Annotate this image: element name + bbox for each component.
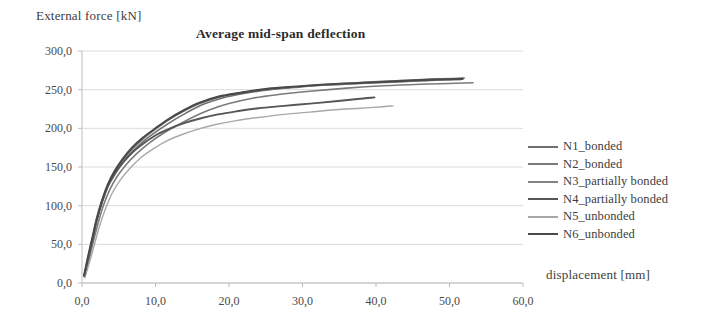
- y-tick-label: 100,0: [20, 200, 72, 212]
- series-line-n4-partially-bonded: [84, 97, 374, 276]
- y-tick-label: 0,0: [20, 277, 72, 289]
- legend-item: N3_partially bonded: [528, 173, 726, 191]
- y-tick-label: 150,0: [20, 161, 72, 173]
- x-tick-label: 10,0: [131, 295, 181, 307]
- legend-line-swatch: [528, 233, 558, 235]
- x-tick-label: 50,0: [425, 295, 475, 307]
- legend-item-label: N4_partially bonded: [563, 192, 668, 207]
- y-tick-label: 300,0: [20, 45, 72, 57]
- series-line-n5-unbonded: [85, 106, 393, 278]
- legend-item: N6_unbonded: [528, 226, 726, 244]
- series-line-n3-partially-bonded: [84, 80, 460, 276]
- legend-line-swatch: [528, 216, 558, 218]
- legend-item-label: N3_partially bonded: [563, 174, 668, 189]
- x-tick-label: 40,0: [351, 295, 401, 307]
- series-line-n2-bonded: [85, 83, 473, 277]
- legend-line-swatch: [528, 163, 558, 165]
- legend-item-label: N5_unbonded: [563, 209, 635, 224]
- legend-line-swatch: [528, 146, 558, 148]
- chart-legend: N1_bondedN2_bondedN3_partially bondedN4_…: [528, 138, 726, 243]
- chart-figure: External force [kN] Average mid-span def…: [0, 0, 728, 327]
- legend-item: N5_unbonded: [528, 208, 726, 226]
- legend-item: N2_bonded: [528, 156, 726, 174]
- legend-line-swatch: [528, 181, 558, 183]
- series-line-n1-bonded: [84, 78, 464, 276]
- y-tick-label: 50,0: [20, 238, 72, 250]
- data-series-group: [84, 78, 473, 278]
- legend-item: N1_bonded: [528, 138, 726, 156]
- legend-item-label: N2_bonded: [563, 157, 622, 172]
- series-line-n6-unbonded: [84, 79, 463, 275]
- x-tick-label: 60,0: [498, 295, 548, 307]
- x-tick-label: 20,0: [204, 295, 254, 307]
- legend-item-label: N1_bonded: [563, 139, 622, 154]
- legend-line-swatch: [528, 198, 558, 200]
- legend-item: N4_partially bonded: [528, 191, 726, 209]
- y-tick-label: 200,0: [20, 122, 72, 134]
- x-tick-label: 0,0: [57, 295, 107, 307]
- x-tick-label: 30,0: [278, 295, 328, 307]
- y-tick-label: 250,0: [20, 84, 72, 96]
- x-axis-title: displacement [mm]: [546, 267, 650, 283]
- legend-item-label: N6_unbonded: [563, 227, 635, 242]
